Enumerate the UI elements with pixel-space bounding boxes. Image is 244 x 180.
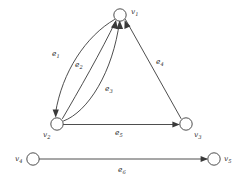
edge-label-e4-sub: 4	[159, 61, 163, 67]
node-label-v1-sub: 1	[135, 11, 138, 17]
edge-e6-arrowhead	[201, 156, 208, 162]
edge-e3-arrowhead	[116, 21, 123, 29]
node-v4-circle[interactable]	[27, 153, 39, 165]
edge-label-e2: e2	[75, 60, 83, 70]
edge-e1-path	[56, 20, 115, 114]
edges-layer	[40, 20, 209, 163]
node-v1[interactable]	[114, 9, 126, 21]
edge-e4-path	[126, 20, 182, 119]
edge-label-e6-sub: 6	[122, 169, 126, 175]
node-v2-circle[interactable]	[51, 118, 63, 130]
node-label-v3: v3	[194, 130, 202, 140]
edge-label-e4: e4	[156, 57, 164, 67]
node-v2[interactable]	[51, 118, 63, 130]
node-label-v2-sub: 2	[46, 134, 50, 140]
edge-label-e5: e5	[115, 128, 123, 138]
node-v5[interactable]	[208, 153, 220, 165]
edge-e5[interactable]	[64, 122, 180, 128]
graph-canvas: v1 v2 v3 v4 v5 e1 e2 e3	[0, 0, 244, 180]
edge-e2-path	[63, 22, 116, 119]
node-label-v5-sub: 5	[228, 158, 231, 164]
node-v1-circle[interactable]	[114, 9, 126, 21]
graph-figure: v1 v2 v3 v4 v5 e1 e2 e3	[0, 0, 244, 180]
edge-e2[interactable]	[63, 20, 118, 119]
node-v3-circle[interactable]	[180, 118, 192, 130]
node-label-v4-sub: 4	[18, 158, 22, 164]
nodes-layer	[27, 9, 220, 165]
node-v4[interactable]	[27, 153, 39, 165]
node-label-v4: v4	[15, 154, 23, 164]
edge-label-e3-sub: 3	[109, 88, 113, 94]
edge-e6[interactable]	[40, 156, 209, 162]
edge-label-e6: e6	[118, 165, 126, 175]
edge-e1-arrowhead	[53, 109, 59, 117]
node-label-v1: v1	[131, 7, 139, 17]
edge-label-e2-sub: 2	[78, 64, 82, 70]
edge-label-e5-sub: 5	[119, 132, 122, 138]
node-label-v3-sub: 3	[198, 134, 202, 140]
node-label-v5: v5	[224, 154, 232, 164]
edge-e4[interactable]	[124, 20, 181, 119]
node-v3[interactable]	[180, 118, 192, 130]
node-label-v2: v2	[43, 130, 51, 140]
edge-e5-arrowhead	[172, 122, 179, 128]
edge-e1[interactable]	[53, 20, 115, 118]
edge-label-e1-sub: 1	[56, 53, 59, 59]
node-v5-circle[interactable]	[208, 153, 220, 165]
node-labels-layer: v1 v2 v3 v4 v5	[15, 7, 232, 164]
edge-label-e1: e1	[52, 49, 60, 59]
edge-e3-path	[64, 22, 120, 122]
edge-label-e3: e3	[105, 84, 113, 94]
